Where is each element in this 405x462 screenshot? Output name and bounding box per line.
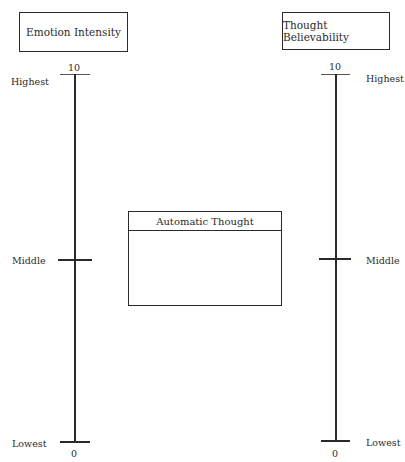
automatic-thought-header: Automatic Thought <box>129 212 281 231</box>
left-bottom-tick <box>60 441 90 443</box>
thought-believability-title: Thought Believability <box>283 19 389 43</box>
thought-believability-title-box: Thought Believability <box>282 12 390 50</box>
left-scale-axis <box>74 74 76 441</box>
right-middle-label: Middle <box>366 256 400 266</box>
emotion-intensity-title-box: Emotion Intensity <box>19 12 128 52</box>
right-scale-axis <box>335 74 337 440</box>
automatic-thought-title: Automatic Thought <box>156 216 254 227</box>
left-middle-label: Middle <box>12 256 46 266</box>
left-min-value: 0 <box>64 449 84 459</box>
emotion-intensity-title: Emotion Intensity <box>26 26 121 38</box>
left-highest-label: Highest <box>11 77 49 87</box>
right-min-value: 0 <box>325 449 345 459</box>
left-middle-tick <box>58 259 92 261</box>
left-lowest-label: Lowest <box>12 439 46 449</box>
right-max-value: 10 <box>325 62 345 72</box>
right-lowest-label: Lowest <box>366 438 400 448</box>
right-bottom-tick <box>321 440 350 442</box>
right-highest-label: Highest <box>366 74 404 84</box>
right-middle-tick <box>319 258 351 260</box>
left-max-value: 10 <box>64 63 84 73</box>
automatic-thought-box: Automatic Thought <box>128 211 282 306</box>
